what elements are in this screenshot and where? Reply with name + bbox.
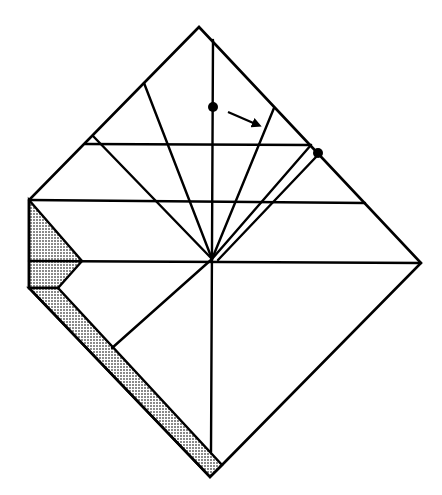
reference-dot-1-icon [208,102,218,112]
radial-crease-2 [144,83,212,259]
horizontal-crease-mid [29,200,365,203]
fold-arrow-icon [228,112,258,125]
radial-crease-3 [212,108,274,259]
reference-dot-2-icon [313,148,323,158]
origami-diagram [0,0,442,495]
vertical-center-crease [211,40,213,452]
shaded-regions [29,200,222,477]
bottom-strip-shading [29,288,222,477]
crease-lines [29,40,421,452]
lower-left-crease [112,259,212,348]
radial-crease-1 [93,136,212,259]
horizontal-crease-top [85,144,311,145]
horizontal-crease-lower [29,261,421,263]
left-flap-shading [29,200,82,288]
